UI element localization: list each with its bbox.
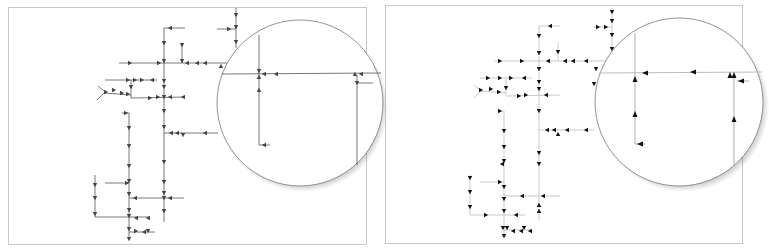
- left-network: [95, 8, 236, 237]
- right-network: [470, 8, 612, 235]
- right-magnifier: [595, 18, 769, 192]
- left-magnifier: [217, 20, 388, 192]
- right-arrows: [468, 10, 614, 238]
- network-diagrams: [0, 0, 769, 250]
- left-arrows: [93, 13, 238, 241]
